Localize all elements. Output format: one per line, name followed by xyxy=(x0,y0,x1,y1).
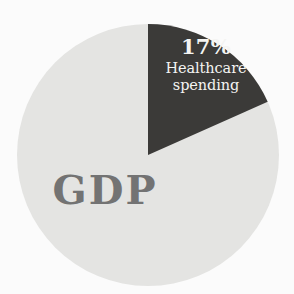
pie-chart-svg xyxy=(0,0,294,294)
pie-chart-figure: 17% Healthcare spending GDP xyxy=(0,0,294,294)
